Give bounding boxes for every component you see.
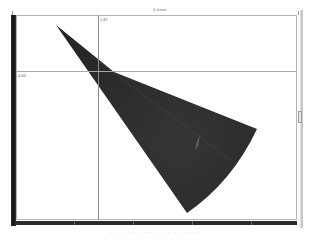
bottom-width-ruler bbox=[16, 221, 297, 225]
ultrasound-viewer: 0.0mm 1.87 0.00 . . . . . . . . . . . . … bbox=[0, 0, 310, 240]
image-caption: . . . . . . . . . . . . . . ... bbox=[0, 229, 310, 234]
scan-sector-shape bbox=[56, 25, 257, 213]
crosshair-y-label: 0.00 bbox=[18, 74, 26, 78]
crosshair-vertical[interactable] bbox=[98, 15, 99, 220]
right-scrollbar-handle[interactable] bbox=[298, 111, 302, 123]
crosshair-horizontal[interactable] bbox=[16, 71, 297, 72]
scan-sector-image[interactable] bbox=[0, 0, 310, 240]
left-depth-ruler bbox=[11, 15, 16, 226]
crosshair-x-label: 1.87 bbox=[100, 18, 108, 22]
